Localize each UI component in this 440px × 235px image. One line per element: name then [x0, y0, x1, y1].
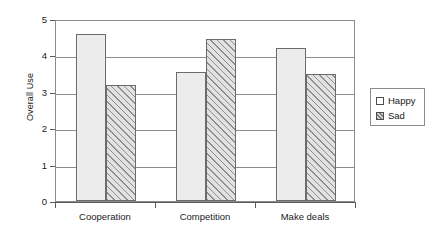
- y-axis-tick-label: 4: [7, 51, 47, 61]
- bar-happy-cooperation: [76, 34, 106, 201]
- hatched-square-icon: [376, 112, 384, 120]
- y-axis-tick: [50, 129, 55, 130]
- y-axis-tick-label: 1: [7, 161, 47, 171]
- x-axis-label-cooperation: Cooperation: [55, 211, 155, 222]
- legend-item-sad: Sad: [376, 109, 424, 123]
- x-axis-tick: [255, 203, 256, 208]
- bar-happy-competition: [176, 72, 206, 201]
- bar-happy-make-deals: [276, 48, 306, 201]
- legend-label-happy: Happy: [388, 96, 415, 106]
- y-axis-tick-label: 0: [7, 197, 47, 207]
- bar-sad-make-deals: [306, 74, 336, 201]
- x-axis-line: [55, 202, 356, 203]
- bar-chart: Overall Use 012345 CooperationCompetitio…: [0, 0, 440, 235]
- bar-sad-competition: [206, 39, 236, 201]
- y-axis-tick: [50, 93, 55, 94]
- legend-item-happy: Happy: [376, 94, 424, 108]
- plot-inner: [56, 21, 354, 201]
- x-axis-tick: [55, 203, 56, 208]
- legend: Happy Sad: [370, 88, 425, 126]
- legend-label-sad: Sad: [388, 111, 405, 121]
- x-axis-tick: [155, 203, 156, 208]
- x-axis-label-competition: Competition: [155, 211, 255, 222]
- y-axis-tick-label: 3: [7, 88, 47, 98]
- y-axis-tick-label: 5: [7, 15, 47, 25]
- x-axis-label-make-deals: Make deals: [255, 211, 355, 222]
- y-axis-tick: [50, 166, 55, 167]
- y-axis-tick: [50, 20, 55, 21]
- y-axis-tick: [50, 56, 55, 57]
- empty-square-icon: [376, 97, 384, 105]
- x-axis-tick: [355, 203, 356, 208]
- bar-sad-cooperation: [106, 85, 136, 201]
- y-axis-tick-label: 2: [7, 124, 47, 134]
- plot-area: [55, 20, 355, 202]
- y-axis-tick: [50, 202, 55, 203]
